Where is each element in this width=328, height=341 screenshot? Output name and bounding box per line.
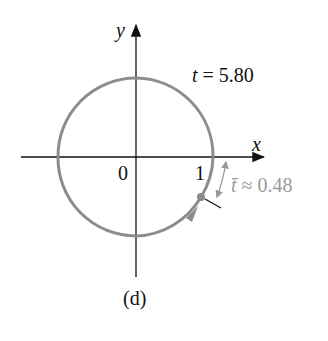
current-point [197, 193, 205, 201]
x-axis-label: x [252, 134, 261, 154]
tangent-tick [205, 199, 221, 208]
tbar-value: ≈ 0.48 [242, 174, 293, 196]
tbar-variable: t̄ [231, 174, 237, 196]
tbar-annotation: t̄ ≈ 0.48 [231, 175, 293, 195]
tbar-arc-arrow [217, 162, 226, 197]
diagram-canvas [0, 0, 328, 341]
t-variable: t [192, 64, 198, 86]
figure-caption: (d) [123, 288, 146, 308]
t-annotation: t = 5.80 [192, 65, 254, 85]
y-axis-label: y [116, 20, 125, 40]
tick-one-label: 1 [195, 163, 205, 183]
origin-label: 0 [118, 163, 128, 183]
t-value: = 5.80 [203, 64, 254, 86]
